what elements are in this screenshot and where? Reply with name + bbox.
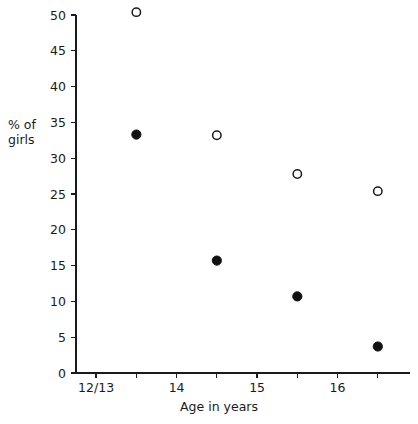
- data-point-open: [213, 131, 221, 139]
- data-point-filled: [293, 292, 302, 301]
- y-tick-label: 35: [50, 115, 66, 130]
- data-point-filled: [212, 256, 221, 265]
- y-tick-label: 30: [50, 151, 66, 166]
- x-axis-title: Age in years: [180, 399, 258, 414]
- x-tick-label: 14: [169, 380, 185, 395]
- data-point-filled: [373, 342, 382, 351]
- y-tick-label: 45: [50, 43, 66, 58]
- y-tick-label: 40: [50, 79, 66, 94]
- plot-canvas: 05101520253035404550 12/13141516 Age in …: [0, 0, 418, 424]
- data-point-filled: [132, 130, 141, 139]
- x-tick-label: 16: [330, 380, 346, 395]
- y-tick-label: 15: [50, 258, 66, 273]
- x-axis-ticks: 12/13141516: [78, 373, 378, 395]
- data-points: [132, 8, 383, 351]
- y-axis-ticks: 05101520253035404550: [50, 8, 76, 381]
- data-point-open: [293, 170, 301, 178]
- scatter-plot-figure: % of girls 05101520253035404550 12/13141…: [0, 0, 418, 424]
- x-tick-label: 12/13: [78, 380, 114, 395]
- y-tick-label: 20: [50, 222, 66, 237]
- axis-lines: [76, 15, 410, 373]
- y-tick-label: 5: [58, 330, 66, 345]
- data-point-open: [132, 8, 140, 16]
- y-tick-label: 25: [50, 187, 66, 202]
- y-tick-label: 0: [58, 366, 66, 381]
- data-point-open: [374, 187, 382, 195]
- x-tick-label: 15: [249, 380, 265, 395]
- y-tick-label: 50: [50, 8, 66, 23]
- y-tick-label: 10: [50, 294, 66, 309]
- axes: [76, 15, 410, 373]
